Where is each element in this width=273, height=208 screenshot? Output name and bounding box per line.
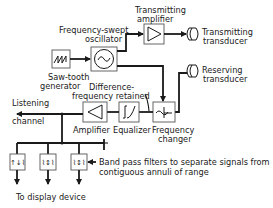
bus-junction-dot [61, 142, 64, 145]
bandpass-filter-3: ⌇↕⌇ [71, 143, 87, 184]
oscillator-label-2: oscillator [85, 34, 123, 44]
bandpass-filter-icon: ↑↓⌇ [10, 159, 25, 167]
tx-amplifier-label-2: amplifier [137, 14, 174, 24]
amplifier-label: Amplifier [73, 125, 111, 135]
bandpass-label-1: Band pass filters to separate signals fr… [99, 157, 270, 167]
frequency-changer-block [153, 102, 175, 122]
difference-label-2: frequency retained [72, 91, 150, 101]
tx-amplifier-block [144, 24, 164, 44]
oscillator-block [91, 47, 117, 71]
rx-transducer-to-changer-line [175, 73, 187, 112]
display-device-label: To display device [15, 192, 86, 202]
sawtooth-generator-block [52, 50, 70, 68]
freq-changer-label-2: changer [158, 134, 192, 144]
equalizer-label: Equalizer [113, 125, 151, 135]
tx-transducer [187, 28, 198, 40]
bandpass-filter-icon: ⌇↕⌇ [42, 159, 55, 167]
amplifier-block [83, 102, 107, 122]
bandpass-filter-2: ⌇↕⌇ [40, 143, 56, 184]
listening-label-2: channel [12, 116, 44, 126]
tx-transducer-label-2: transducer [203, 36, 248, 46]
transducer-icon [187, 65, 198, 77]
bandpass-filter-icon: ⌇↕⌇ [73, 159, 86, 167]
rx-transducer [187, 65, 198, 77]
sawtooth-label-2: generator [40, 81, 81, 91]
block-diagram: Saw-tooth generator Frequency-swept osci… [0, 0, 273, 208]
equalizer-block [119, 102, 139, 122]
listening-label-1: Listening [12, 98, 49, 108]
bandpass-filter-1: ↑↓⌇ [10, 143, 25, 184]
transducer-icon [187, 28, 198, 40]
rx-transducer-label-2: transducer [203, 74, 248, 84]
bandpass-label-2: contiguous annuli of range [99, 167, 209, 177]
